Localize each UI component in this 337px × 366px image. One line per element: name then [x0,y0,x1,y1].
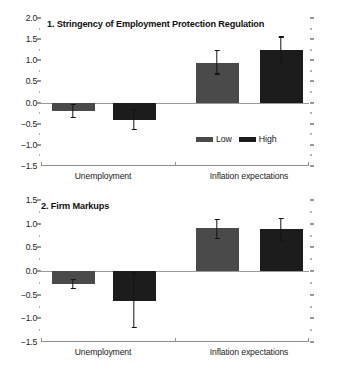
y-tick-dash [37,39,41,40]
y-tick-dash-minor-right [310,155,312,156]
y-tick-label: 0.0 [26,266,37,276]
y-tick-label: 1.5 [26,195,37,205]
error-cap-top [278,218,283,219]
panel-1-xlabel-unemployment: Unemployment [75,171,132,181]
y-tick-dash [37,294,41,295]
y-tick-dash-minor-right [310,28,312,29]
y-tick-dash-minor-right [310,330,312,331]
panel-2-axis-tick-mid [175,338,176,342]
chart-panel-2: 2. Firm Markups 1.51.00.50.0−0.5−1.0−1.5… [0,190,337,366]
legend-swatch-low-icon [196,137,213,142]
y-tick-dash-right [310,223,314,224]
chart-panel-1: 1. Stringency of Employment Protection R… [0,10,337,188]
error-cap-bottom [70,288,75,289]
error-cap-bottom [131,327,136,328]
panel-1-legend-label-high: High [259,134,277,144]
y-tick-dash-minor [39,70,41,71]
y-tick-label: −0.5 [21,119,37,129]
error-cap-top [70,279,75,280]
panel-2-xlabel-inflation: Inflation expectations [210,347,289,357]
error-bar-high-1 [280,36,281,64]
y-tick-dash-minor [39,49,41,50]
y-tick-dash [37,60,41,61]
error-cap-bottom [278,240,283,241]
y-tick-dash-minor-right [310,92,312,93]
y-tick-label: 0.0 [26,98,37,108]
error-cap-bottom [278,63,283,64]
y-tick-label: −1.5 [21,337,37,347]
error-bar-low-1 [216,50,217,75]
y-tick-dash-minor [39,259,41,260]
y-tick-dash-minor-right [310,113,312,114]
y-tick-dash-minor [39,113,41,114]
panel-1-axis-cap-right [308,162,309,166]
y-tick-dash [37,271,41,272]
error-cap-top [131,272,136,273]
y-tick-dash [37,81,41,82]
y-tick-dash-minor-right [310,134,312,135]
panel-2-xlabel-unemployment: Unemployment [75,347,132,357]
y-tick-dash-right [310,123,314,124]
error-bar-low-1 [216,219,217,239]
y-tick-dash-minor-right [310,70,312,71]
y-tick-dash-minor [39,211,41,212]
y-tick-dash-right [310,342,314,343]
y-tick-dash [37,18,41,19]
y-tick-dash-minor [39,28,41,29]
panel-1-legend-item-low: Low [196,134,232,144]
y-tick-label: −0.5 [21,290,37,300]
legend-swatch-high-icon [239,137,256,142]
y-tick-label: −1.0 [21,313,37,323]
y-tick-dash-right [310,318,314,319]
y-tick-label: −1.0 [21,140,37,150]
error-bar-low-0 [72,104,73,118]
figure-bar-chart-panels: 1. Stringency of Employment Protection R… [0,0,337,366]
y-tick-dash [37,144,41,145]
panel-1-legend: Low High [196,134,277,144]
y-tick-dash-minor-right [310,235,312,236]
y-tick-dash-right [310,102,314,103]
y-tick-dash [37,223,41,224]
panel-1-xlabel-inflation: Inflation expectations [210,171,289,181]
error-cap-bottom [131,129,136,130]
error-cap-top [70,104,75,105]
panel-2-plot-area: 1.51.00.50.0−0.5−1.0−1.5 [41,200,309,342]
y-tick-dash-right [310,271,314,272]
error-bar-high-1 [280,218,281,242]
y-tick-dash-right [310,200,314,201]
y-tick-dash-minor [39,92,41,93]
y-tick-dash-minor-right [310,211,312,212]
y-tick-dash-right [310,18,314,19]
error-cap-bottom [214,73,219,74]
error-cap-top [278,36,283,37]
y-tick-label: 1.0 [26,219,37,229]
y-tick-dash-right [310,144,314,145]
y-tick-dash-minor [39,155,41,156]
error-bar-high-0 [133,109,134,130]
y-tick-dash-right [310,247,314,248]
panel-1-axis-cap-left [41,162,42,166]
error-cap-bottom [214,238,219,239]
panel-2-axis-cap-right [308,338,309,342]
panel-1-legend-item-high: High [239,134,277,144]
y-tick-dash-minor [39,235,41,236]
error-cap-bottom [70,117,75,118]
error-cap-top [214,219,219,220]
y-tick-dash-minor [39,306,41,307]
y-tick-dash-right [310,39,314,40]
y-tick-dash [37,200,41,201]
y-tick-dash [37,247,41,248]
y-tick-label: −1.5 [21,161,37,171]
y-tick-dash-minor-right [310,259,312,260]
y-tick-dash-right [310,294,314,295]
y-tick-label: 1.5 [26,34,37,44]
y-tick-dash-minor-right [310,49,312,50]
y-tick-dash-minor-right [310,282,312,283]
y-tick-dash-minor-right [310,306,312,307]
y-tick-dash-minor [39,330,41,331]
panel-2-axis-cap-left [41,338,42,342]
y-tick-dash [37,123,41,124]
y-tick-label: 0.5 [26,76,37,86]
error-cap-top [131,109,136,110]
y-tick-dash [37,102,41,103]
